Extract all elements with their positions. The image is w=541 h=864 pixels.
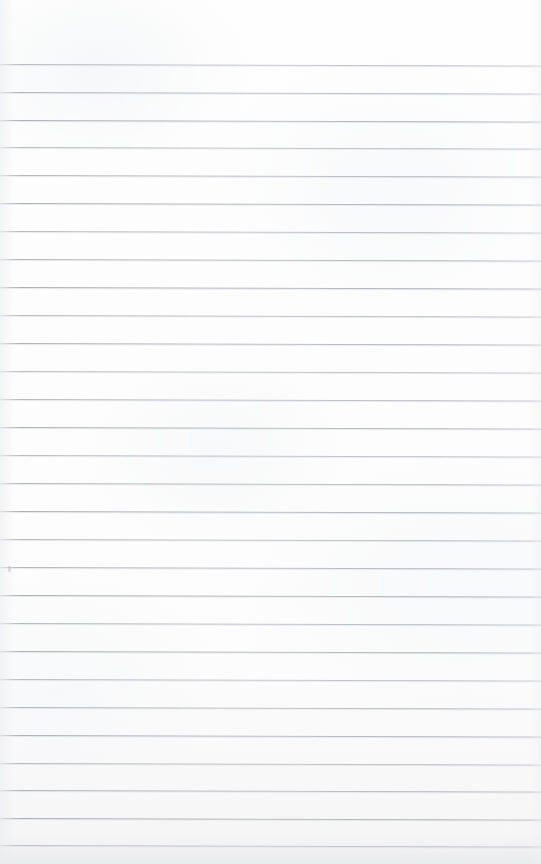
rule-line [0,763,541,766]
rule-line [0,483,541,486]
rule-line [0,679,541,682]
rule-line [0,147,541,150]
rule-line [0,175,541,178]
rule-line [0,595,541,598]
rule-line [0,92,541,95]
rule-line [0,651,541,654]
rule-line [0,511,541,514]
rule-line [0,203,541,206]
rule-line [0,287,541,290]
scan-speck [8,566,11,572]
rule-line [0,399,541,402]
rule-line [0,818,541,821]
rule-line [0,735,541,738]
rule-line [0,427,541,430]
rule-line [0,707,541,710]
rule-line [0,539,541,542]
rule-line [0,790,541,793]
rule-line [0,120,541,123]
rule-line [0,64,541,67]
rule-line [0,315,541,318]
rule-line [0,231,541,234]
rule-line [0,623,541,626]
rule-line [0,259,541,262]
notebook-page [0,0,541,864]
rule-line [0,567,541,570]
rule-line [0,371,541,374]
rule-line [0,845,541,848]
rule-line [0,455,541,458]
rule-line [0,343,541,346]
